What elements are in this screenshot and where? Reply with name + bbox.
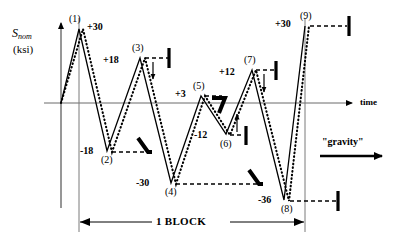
x-axis-label: time — [360, 98, 377, 107]
value-label-9: +30 — [275, 19, 291, 29]
block-arrowhead-right — [294, 218, 304, 226]
value-label-3: +18 — [103, 55, 119, 65]
figure-canvas: Snom (ksi) time (1) (2) (3) (4) (5) (6) … — [0, 0, 401, 246]
gravity-caption: "gravity" — [322, 137, 364, 147]
point-label-3: (3) — [132, 43, 144, 53]
waveform-solid — [61, 26, 305, 200]
point-label-2: (2) — [101, 155, 113, 165]
value-label-1: +30 — [87, 22, 103, 32]
value-label-5: +3 — [175, 89, 186, 99]
point-label-6: (6) — [220, 139, 232, 149]
point-label-4: (4) — [165, 187, 177, 197]
value-label-6: -12 — [194, 130, 207, 140]
value-label-8: -36 — [258, 195, 271, 205]
hook-marker-5 — [212, 98, 225, 113]
hook-marker-4 — [249, 170, 263, 184]
stress-history-solid — [61, 26, 305, 200]
hook-marker-2 — [138, 138, 152, 152]
point-label-1: (1) — [69, 14, 81, 24]
value-label-7: +12 — [219, 67, 235, 77]
y-axis-label-sub: nom — [18, 32, 32, 41]
value-label-2: -18 — [80, 146, 93, 156]
y-axis-unit: (ksi) — [13, 44, 33, 55]
block-caption: 1 BLOCK — [156, 216, 206, 227]
point-label-5: (5) — [193, 81, 205, 91]
y-axis-label: Snom — [12, 27, 32, 41]
point-label-8: (8) — [281, 204, 293, 214]
block-arrowhead-left — [80, 218, 90, 226]
waveform-svg — [0, 0, 401, 246]
point-label-7: (7) — [244, 55, 256, 65]
point-label-9: (9) — [300, 11, 312, 21]
value-label-4: -30 — [136, 178, 149, 188]
